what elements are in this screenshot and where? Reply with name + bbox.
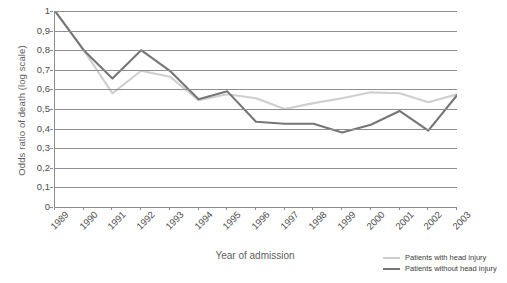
figure-container: Odds ratio of death (log scale) 00,10,20…	[0, 0, 507, 283]
y-axis-tick-label: 0,9	[4, 26, 50, 36]
y-axis-tick-label: 0,1	[4, 182, 50, 192]
legend-color-swatch	[383, 268, 400, 270]
y-axis-tick-mark	[50, 89, 53, 90]
legend-label: Patients with head injury	[405, 254, 486, 262]
x-axis-tick-mark	[198, 207, 199, 210]
y-axis-tick-mark	[50, 11, 53, 12]
plot-area	[54, 11, 456, 207]
figure-caption	[4, 273, 334, 283]
legend-label: Patients without head injury	[405, 265, 497, 273]
y-axis-tick-label: 0,3	[4, 143, 50, 153]
y-axis-tick-mark	[50, 129, 53, 130]
x-axis-tick-mark	[370, 207, 371, 210]
x-axis-tick-mark	[399, 207, 400, 210]
gridline	[55, 11, 457, 12]
gridline	[55, 31, 457, 32]
y-axis-tick-mark	[50, 109, 53, 110]
gridline	[55, 89, 457, 90]
y-axis-tick-label: 0,4	[4, 124, 50, 134]
legend-item[interactable]: Patients with head injury	[383, 252, 497, 263]
x-axis-tick-mark	[341, 207, 342, 210]
gridline	[55, 129, 457, 130]
series-line	[55, 11, 457, 109]
y-axis-tick-label: 0,2	[4, 163, 50, 173]
legend-item[interactable]: Patients without head injury	[383, 263, 497, 274]
gridline	[55, 50, 457, 51]
gridline	[55, 168, 457, 169]
y-axis-tick-mark	[50, 31, 53, 32]
legend-color-swatch	[383, 257, 400, 259]
x-axis-tick-mark	[427, 207, 428, 210]
gridline	[55, 109, 457, 110]
y-axis-tick-label: 0,8	[4, 45, 50, 55]
x-axis-tick-mark	[284, 207, 285, 210]
y-axis-tick-label: 0	[4, 202, 50, 212]
x-axis-tick-mark	[169, 207, 170, 210]
x-axis-tick-mark	[312, 207, 313, 210]
y-axis-tick-label: 0,7	[4, 65, 50, 75]
y-axis-tick-mark	[50, 70, 53, 71]
gridline	[55, 148, 457, 149]
y-axis-tick-mark	[50, 50, 53, 51]
x-axis-title: Year of admission	[140, 250, 370, 261]
chart-legend: Patients with head injuryPatients withou…	[383, 252, 497, 274]
y-axis-tick-mark	[50, 148, 53, 149]
x-axis-tick-labels: 1989199019911992199319941995199619971998…	[54, 207, 456, 247]
y-axis-tick-labels: 00,10,20,30,40,50,60,70,80,91	[0, 11, 50, 207]
x-axis-tick-mark	[111, 207, 112, 210]
x-axis-tick-mark	[255, 207, 256, 210]
y-axis-tick-mark	[50, 187, 53, 188]
x-axis-tick-mark	[83, 207, 84, 210]
x-axis-tick-mark	[456, 207, 457, 210]
x-axis-tick-mark	[226, 207, 227, 210]
y-axis-tick-mark	[50, 168, 53, 169]
y-axis-tick-label: 0,5	[4, 104, 50, 114]
x-axis-tick-mark	[54, 207, 55, 210]
gridline	[55, 187, 457, 188]
y-axis-tick-label: 1	[4, 6, 50, 16]
y-axis-tick-mark	[50, 207, 53, 208]
y-axis-tick-label: 0,6	[4, 84, 50, 94]
x-axis-tick-mark	[140, 207, 141, 210]
gridline	[55, 70, 457, 71]
series-line	[55, 11, 457, 133]
